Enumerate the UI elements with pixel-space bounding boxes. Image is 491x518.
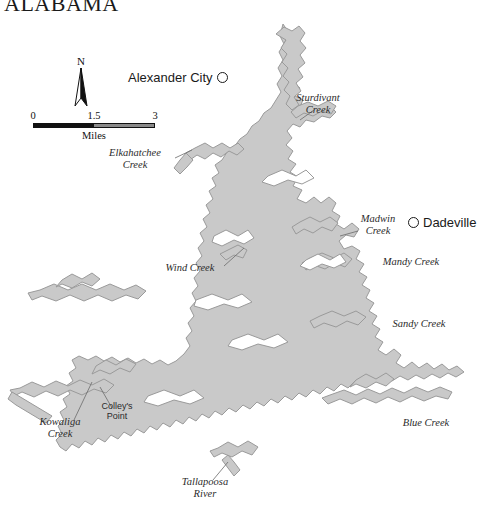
water-label-madwin-creek: Madwin Creek — [361, 213, 395, 236]
western-mid-bay — [28, 284, 146, 301]
water-label-kowaliga-creek: Kowaliga Creek — [40, 416, 81, 439]
open-circle-icon — [217, 72, 228, 83]
water-label-blue-creek: Blue Creek — [403, 417, 450, 429]
city-marker-dadeville[interactable]: Dadeville — [408, 215, 476, 230]
north-arrow-label: N — [64, 55, 98, 67]
lake-main-body — [56, 24, 464, 451]
map-canvas: ALABAMA N 0 1.5 3 Miles Alexander Cit — [0, 0, 491, 518]
scale-segment-dark — [34, 124, 94, 127]
scale-tick-0: 0 — [30, 110, 35, 121]
city-label-alexander-city: Alexander City — [128, 70, 213, 85]
scale-segment-light — [94, 124, 154, 127]
city-marker-alexander-city[interactable]: Alexander City — [128, 70, 228, 85]
water-label-mandy-creek: Mandy Creek — [383, 256, 439, 268]
water-label-sturdivant-creek: Sturdivant Creek — [296, 92, 339, 115]
scale-tick-2: 3 — [152, 110, 157, 121]
scale-bar-graphic — [33, 123, 155, 128]
open-circle-icon — [408, 217, 419, 228]
scale-bar-ticks: 0 1.5 3 — [33, 110, 155, 123]
water-label-elkahatchee-creek: Elkahatchee Creek — [109, 147, 161, 170]
water-label-sandy-creek: Sandy Creek — [393, 318, 446, 330]
poi-label-colleys-point: Colley's Point — [101, 401, 132, 421]
blue-creek-arm — [322, 387, 452, 404]
north-arrow: N — [64, 58, 98, 110]
scale-bar-units: Miles — [33, 130, 155, 141]
scale-bar: 0 1.5 3 Miles — [33, 110, 155, 141]
water-label-wind-creek: Wind Creek — [166, 262, 215, 274]
page-title: ALABAMA — [4, 0, 119, 17]
scale-tick-1: 1.5 — [87, 110, 100, 121]
tallapoosa-river-outlet — [210, 441, 258, 457]
city-label-dadeville: Dadeville — [423, 215, 476, 230]
water-label-tallapoosa-river: Tallapoosa River — [182, 476, 228, 499]
